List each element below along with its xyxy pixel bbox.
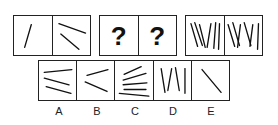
option-d-figure [154,61,191,100]
unknown-cell-1: ? [100,16,139,55]
option-d-cell[interactable] [154,61,192,100]
figure-cell-3b [225,16,263,55]
one-line-figure [14,16,52,55]
option-c-label: C [116,105,154,117]
figure-cell-1a [14,16,53,55]
option-b-label: B [78,105,116,117]
two-line-figure [53,16,91,55]
options-strip [38,60,230,101]
figure-group-1 [13,15,91,56]
figure-cell-1b [53,16,91,55]
figure-group-3 [185,15,263,56]
unknown-cell-2: ? [139,16,177,55]
question-mark: ? [111,23,127,49]
option-a-label: A [40,105,78,117]
option-c-cell[interactable] [115,61,153,100]
question-mark: ? [149,23,165,49]
option-a-figure [39,61,76,100]
option-a-cell[interactable] [39,61,77,100]
option-c-figure [115,61,152,100]
six-line-figure [186,16,224,55]
figure-cell-3a [186,16,225,55]
option-e-figure [192,61,229,100]
option-e-label: E [192,105,230,117]
option-e-cell[interactable] [192,61,229,100]
option-d-label: D [154,105,192,117]
option-b-cell[interactable] [77,61,115,100]
six-line-figure [225,16,263,55]
figure-group-2: ? ? [99,15,177,56]
option-b-figure [77,61,114,100]
